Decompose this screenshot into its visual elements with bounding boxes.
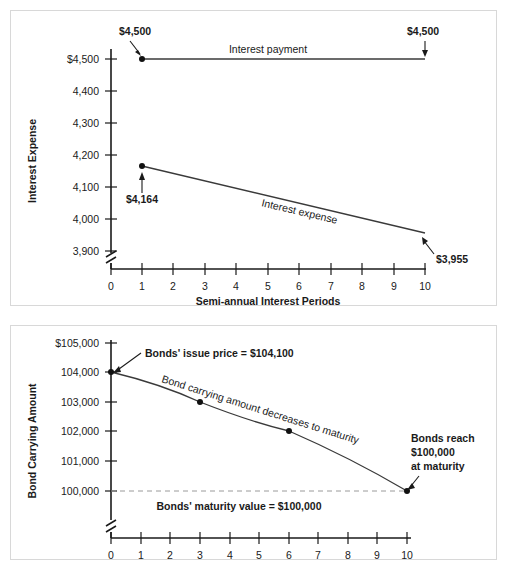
x-tick-label: 5 [265, 280, 271, 292]
annotation-maturity-arrowhead [407, 483, 415, 490]
annotation-payment-start-arrowhead [135, 50, 141, 56]
bond-carrying-amount-chart-svg: Bond Carrying Amount $105,000 104,000 10… [11, 326, 496, 559]
x-tick-label: 7 [328, 280, 334, 292]
x-tick-label: 5 [256, 549, 262, 559]
interest-expense-start-marker [139, 163, 145, 169]
y-axis-break-mark [106, 520, 116, 532]
x-axis-title-periods: Semi-annual Interest Periods [196, 295, 341, 305]
x-tick-label: 0 [108, 280, 114, 292]
y-tick-label: 4,300 [73, 117, 99, 129]
y-tick-label: 102,000 [61, 425, 99, 437]
x-axis-tick-labels: 0 1 2 3 4 5 6 7 8 9 10 [108, 280, 431, 292]
y-tick-label: 4,000 [73, 213, 99, 225]
y-tick-label: $105,000 [55, 337, 99, 349]
interest-payment-start-marker [139, 56, 145, 62]
data-point-period-0 [108, 369, 114, 375]
y-tick-label: 101,000 [61, 455, 99, 467]
y-tick-label: 100,000 [61, 485, 99, 497]
x-tick-label: 6 [296, 280, 302, 292]
x-tick-label: 6 [286, 549, 292, 559]
annotation-issue-price-leader [119, 353, 141, 369]
x-tick-label: 4 [227, 549, 233, 559]
annotation-issue-price: Bonds' issue price = $104,100 [145, 347, 294, 359]
y-tick-label: 104,000 [61, 366, 99, 378]
x-tick-label: 2 [167, 549, 173, 559]
annotation-payment-start-value: $4,500 [119, 25, 151, 37]
x-tick-label: 1 [138, 549, 144, 559]
interest-expense-chart-panel: Interest Expense $4,500 4,400 4,300 4,20… [10, 10, 497, 306]
y-tick-label: $4,500 [67, 53, 99, 65]
y-axis-title-interest-expense: Interest Expense [26, 119, 38, 203]
x-tick-label: 9 [374, 549, 380, 559]
x-tick-label: 8 [359, 280, 365, 292]
interest-expense-chart-svg: Interest Expense $4,500 4,400 4,300 4,20… [11, 11, 496, 305]
x-tick-label: 4 [233, 280, 239, 292]
x-axis-tick-labels: 0 1 2 3 4 5 6 7 8 9 10 [108, 549, 413, 559]
x-tick-label: 0 [108, 549, 114, 559]
annotation-maturity-line-2: $100,000 [411, 446, 455, 458]
data-point-period-6 [286, 428, 292, 434]
y-tick-label: 3,900 [73, 245, 99, 257]
annotation-maturity-line-3: at maturity [411, 460, 465, 472]
x-tick-label: 3 [197, 549, 203, 559]
y-axis-tick-labels: $105,000 104,000 103,000 102,000 101,000… [55, 337, 99, 497]
annotation-payment-end-value: $4,500 [407, 25, 439, 37]
x-tick-label: 9 [391, 280, 397, 292]
annotation-payment-end-arrowhead [422, 50, 428, 57]
x-tick-label: 10 [401, 549, 413, 559]
y-axis-tick-labels: $4,500 4,400 4,300 4,200 4,100 4,000 3,9… [67, 53, 99, 257]
bond-carrying-amount-curve [111, 372, 407, 491]
bond-carrying-amount-chart-panel: Bond Carrying Amount $105,000 104,000 10… [10, 325, 497, 560]
annotation-issue-price-arrowhead [113, 366, 121, 373]
annotation-maturity-line-1: Bonds reach [411, 432, 475, 444]
y-tick-label: 4,100 [73, 181, 99, 193]
y-tick-label: 4,400 [73, 85, 99, 97]
inline-label-interest-expense: Interest expense [261, 196, 339, 226]
y-axis-title-bond-carrying-amount: Bond Carrying Amount [26, 383, 38, 499]
x-tick-label: 10 [419, 280, 431, 292]
y-tick-label: 103,000 [61, 396, 99, 408]
data-point-period-3 [197, 399, 203, 405]
x-tick-label: 3 [202, 280, 208, 292]
interest-expense-line [142, 166, 425, 233]
annotation-expense-end-arrowhead [422, 237, 428, 245]
x-tick-label: 8 [345, 549, 351, 559]
inline-label-interest-payment: Interest payment [229, 43, 307, 55]
annotation-expense-start-value: $4,164 [126, 193, 158, 205]
annotation-expense-end-value: $3,955 [436, 253, 468, 265]
x-tick-label: 1 [139, 280, 145, 292]
annotation-expense-start-arrowhead [139, 172, 145, 180]
y-tick-label: 4,200 [73, 149, 99, 161]
x-tick-label: 7 [315, 549, 321, 559]
x-tick-label: 2 [170, 280, 176, 292]
maturity-value-reference-label: Bonds' maturity value = $100,000 [156, 500, 321, 512]
inline-label-bond-carrying-amount: Bond carrying amount decreases to maturi… [160, 372, 361, 446]
